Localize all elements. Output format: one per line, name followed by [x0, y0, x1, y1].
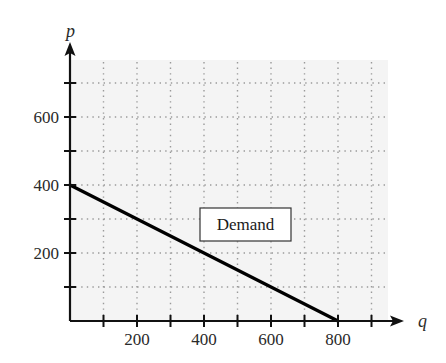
y-axis-label: p [64, 21, 75, 41]
legend-box: Demand [200, 208, 291, 241]
y-tick-label: 200 [34, 244, 60, 263]
x-tick-label: 600 [258, 330, 284, 349]
demand-chart: 200400600800 q 200400600 p Demand [0, 0, 446, 363]
x-tick-label: 800 [325, 330, 351, 349]
y-axis: 200400600 p [34, 21, 77, 321]
y-tick-label: 400 [34, 176, 60, 195]
x-tick-label: 200 [124, 330, 150, 349]
plot-background [70, 60, 388, 321]
x-axis-label: q [418, 311, 427, 331]
legend-label: Demand [217, 215, 275, 234]
y-tick-label: 600 [34, 108, 60, 127]
x-tick-label: 400 [191, 330, 217, 349]
